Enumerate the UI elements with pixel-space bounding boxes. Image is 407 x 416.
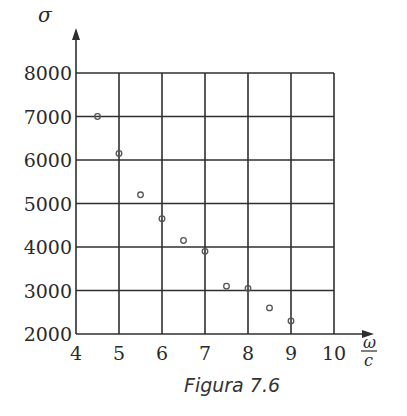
y-tick-label: 2000 xyxy=(24,323,72,345)
x-axis-label-numerator: ω xyxy=(363,333,376,352)
y-tick-label: 4000 xyxy=(24,236,72,258)
y-tick-label: 6000 xyxy=(24,149,72,171)
y-tick-label: 3000 xyxy=(24,280,72,302)
y-axis-label: σ xyxy=(38,3,53,27)
y-tick-label: 5000 xyxy=(24,193,72,215)
data-point xyxy=(267,305,273,311)
x-tick-label: 7 xyxy=(199,342,211,364)
data-point xyxy=(138,192,144,198)
y-axis-arrow xyxy=(72,28,80,40)
figure-caption: Figura 7.6 xyxy=(184,374,280,396)
x-axis-label: ω c xyxy=(361,333,377,370)
y-tick-label: 8000 xyxy=(24,62,72,84)
data-point xyxy=(181,238,187,244)
data-point xyxy=(224,283,230,289)
x-tick-label: 8 xyxy=(242,342,254,364)
y-tick-labels: 2000300040005000600070008000 xyxy=(24,62,72,345)
axes xyxy=(72,28,374,338)
y-tick-label: 7000 xyxy=(24,106,72,128)
x-tick-label: 4 xyxy=(70,342,82,364)
x-tick-label: 10 xyxy=(322,342,346,364)
scatter-chart: 45678910 2000300040005000600070008000 σ … xyxy=(0,0,407,416)
x-tick-label: 5 xyxy=(113,342,125,364)
x-tick-label: 6 xyxy=(156,342,168,364)
x-axis-label-denominator: c xyxy=(364,351,373,370)
x-tick-label: 9 xyxy=(285,342,297,364)
x-tick-labels: 45678910 xyxy=(70,342,346,364)
grid xyxy=(76,73,334,334)
data-points xyxy=(95,114,294,324)
